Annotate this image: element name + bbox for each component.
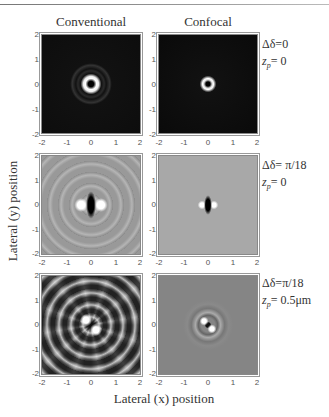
delta-label: Δδ=0	[262, 36, 288, 53]
panel-confocal-row2	[158, 155, 258, 255]
y-axis-label: Lateral (y) position	[5, 156, 21, 266]
top-rule	[0, 4, 329, 5]
zp-label: zp= 0	[262, 53, 288, 74]
zp-label: zp= 0.5μm	[262, 292, 311, 313]
zp-label: zp= 0	[262, 174, 307, 195]
column-title-confocal: Confocal	[158, 14, 258, 30]
column-title-conventional: Conventional	[41, 14, 141, 30]
panel-conventional-row2	[41, 155, 141, 255]
panel-confocal-row3	[158, 275, 258, 375]
panel-conventional-row3	[41, 275, 141, 375]
delta-label: Δδ=π/18	[262, 275, 311, 292]
delta-label: Δδ= π/18	[262, 157, 307, 174]
condition-label-row2: Δδ= π/18 zp= 0	[262, 157, 307, 195]
condition-label-row3: Δδ=π/18 zp= 0.5μm	[262, 275, 311, 313]
condition-label-row1: Δδ=0 zp= 0	[262, 36, 288, 74]
panel-conventional-row1	[41, 34, 141, 134]
panel-confocal-row1	[158, 34, 258, 134]
x-axis-label: Lateral (x) position	[104, 391, 224, 407]
